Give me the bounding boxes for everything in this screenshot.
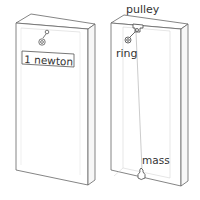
ring-label: ring <box>116 47 138 60</box>
newton-label: 1 newton <box>24 53 73 68</box>
newton-label-box: 1 newton <box>22 51 74 68</box>
mass-label: mass <box>142 154 170 166</box>
pulley-label: pulley <box>126 3 160 16</box>
diagram-canvas: 1 newton pulley ring mass <box>0 0 200 200</box>
left-box <box>16 14 95 185</box>
